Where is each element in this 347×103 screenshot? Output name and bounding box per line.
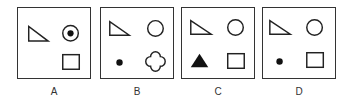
right-triangle-icon (29, 26, 48, 41)
square-icon (307, 53, 324, 68)
option-d-label: D (262, 86, 336, 97)
filled-triangle-icon (191, 54, 209, 68)
option-c-label: C (181, 86, 255, 97)
option-b-panel[interactable] (100, 7, 174, 79)
square-icon (228, 54, 245, 69)
quatrefoil-icon (146, 52, 165, 71)
right-triangle-icon (191, 21, 211, 35)
option-b-label: B (100, 86, 174, 97)
square-icon (63, 55, 80, 70)
option-c-panel[interactable] (181, 7, 255, 79)
circle-icon (148, 21, 164, 37)
right-triangle-icon (110, 22, 129, 36)
center-dot-icon (67, 30, 73, 36)
circle-icon (228, 20, 244, 36)
filled-dot-icon (276, 58, 282, 64)
filled-dot-icon (116, 59, 122, 65)
option-a-label: A (17, 86, 91, 97)
right-triangle-icon (270, 21, 290, 35)
option-a-shapes (18, 8, 90, 78)
option-c-shapes (182, 8, 254, 78)
option-d-panel[interactable] (262, 7, 336, 79)
option-b-shapes (101, 8, 173, 78)
option-d-shapes (263, 8, 335, 78)
option-a-panel[interactable] (17, 7, 91, 79)
circle-icon (307, 20, 323, 36)
